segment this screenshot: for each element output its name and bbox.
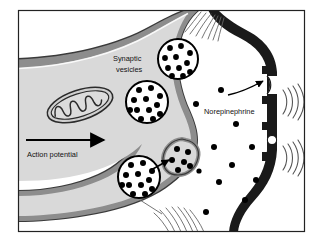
- label-action-potential: Action potential: [27, 150, 78, 159]
- neurotransmitter-dot: [242, 197, 248, 203]
- neurotransmitter-dot: [196, 168, 201, 173]
- label-synaptic-vesicles-line2: vesicles: [116, 65, 143, 74]
- neurotransmitter-dot: [218, 87, 224, 93]
- receptor-lower[interactable]: [267, 135, 276, 144]
- synaptic-vesicle: [126, 81, 168, 123]
- neurotransmitter-dot: [249, 144, 255, 150]
- neurotransmitter-dot: [216, 179, 222, 185]
- synapse-diagram: Synaptic vesicles Norepinephrine Action …: [0, 0, 320, 245]
- vesicle-fusing: [163, 139, 199, 175]
- neurotransmitter-dot: [211, 144, 217, 150]
- neurotransmitter-dot: [229, 162, 235, 168]
- label-norepinephrine: Norepinephrine: [204, 107, 255, 116]
- figure-root: c: [0, 0, 320, 245]
- neurotransmitter-dot: [193, 101, 199, 107]
- diagram-contents: Synaptic vesicles Norepinephrine Action …: [18, 4, 305, 232]
- neurotransmitter-dot: [233, 121, 239, 127]
- neurotransmitter-dot: [203, 209, 209, 215]
- neurotransmitter-dot: [253, 177, 259, 183]
- synaptic-vesicle: [118, 156, 160, 198]
- label-synaptic-vesicles-line1: Synaptic: [113, 54, 142, 63]
- synaptic-vesicle: [158, 39, 198, 79]
